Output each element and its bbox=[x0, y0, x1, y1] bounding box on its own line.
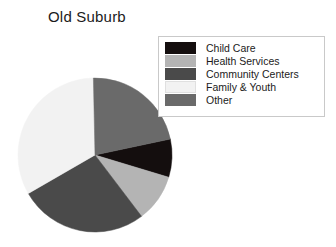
legend-item-label: Family & Youth bbox=[206, 81, 276, 93]
pie-slice-group bbox=[18, 78, 172, 232]
legend-item-health-services[interactable]: Health Services bbox=[159, 54, 324, 67]
legend-item-label: Community Centers bbox=[206, 68, 299, 80]
legend-item-label: Health Services bbox=[206, 55, 280, 67]
legend-swatch-icon bbox=[165, 42, 196, 54]
legend-item-label: Child Care bbox=[206, 42, 256, 54]
legend-swatch-icon bbox=[165, 68, 196, 80]
legend-item-label: Other bbox=[206, 94, 232, 106]
chart-legend: Child Care Health Services Community Cen… bbox=[158, 36, 325, 117]
legend-swatch-icon bbox=[165, 55, 196, 67]
legend-item-family-youth[interactable]: Family & Youth bbox=[159, 80, 324, 93]
legend-item-community-centers[interactable]: Community Centers bbox=[159, 67, 324, 80]
legend-swatch-icon bbox=[165, 81, 196, 93]
pie-chart-figure: Old Suburb Child Care Health Services Co… bbox=[0, 0, 336, 247]
legend-item-child-care[interactable]: Child Care bbox=[159, 41, 324, 54]
legend-swatch-icon bbox=[165, 94, 196, 106]
legend-item-other[interactable]: Other bbox=[159, 93, 324, 106]
